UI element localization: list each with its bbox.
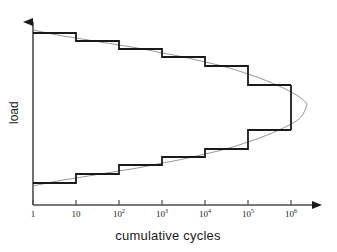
- x-tick-label-10-base: 10: [72, 209, 81, 219]
- x-tick-label-1e6: 106: [285, 210, 297, 219]
- x-tick-label-1e6-exp: 6: [294, 208, 297, 214]
- x-tick-label-1e4-exp: 4: [208, 208, 211, 214]
- x-tick-label-1e3: 103: [156, 210, 168, 219]
- x-axis-title: cumulative cycles: [115, 228, 220, 243]
- x-tick-label-1e2-exp: 2: [122, 208, 125, 214]
- envelope-upper-curve: [33, 30, 307, 104]
- x-tick-label-10: 10: [72, 210, 81, 219]
- x-tick-label-1e5: 105: [242, 210, 254, 219]
- x-tick-label-1e2-base: 10: [113, 209, 122, 219]
- x-tick-label-1: 1: [31, 210, 36, 219]
- x-tick-label-1e5-exp: 5: [251, 208, 254, 214]
- y-axis-title: load: [7, 110, 21, 124]
- x-tick-label-1e3-exp: 3: [165, 208, 168, 214]
- load-spectrum-chart: 1 10 102 103 104 105 106 cumulative cycl…: [0, 0, 337, 252]
- x-tick-label-1-base: 1: [31, 209, 36, 219]
- staircase-lower: [33, 130, 291, 183]
- x-tick-label-1e6-base: 10: [285, 209, 294, 219]
- x-tick-label-1e5-base: 10: [242, 209, 251, 219]
- x-tick-label-1e4-base: 10: [199, 209, 208, 219]
- envelope-lower-curve: [33, 104, 307, 186]
- staircase-upper: [33, 33, 291, 85]
- x-tick-label-1e2: 102: [113, 210, 125, 219]
- x-tick-label-1e4: 104: [199, 210, 211, 219]
- x-tick-label-1e3-base: 10: [156, 209, 165, 219]
